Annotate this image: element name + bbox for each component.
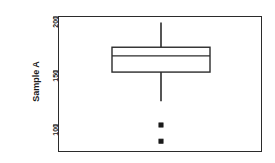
boxplot-figure: Sample A 200 150 100 bbox=[0, 0, 275, 163]
y-axis-ticks bbox=[53, 17, 59, 125]
plot-canvas bbox=[0, 0, 275, 163]
interquartile-box bbox=[112, 47, 210, 72]
plot-frame bbox=[59, 17, 262, 152]
outlier-point-1 bbox=[159, 123, 163, 127]
outlier-point-2 bbox=[159, 139, 163, 143]
